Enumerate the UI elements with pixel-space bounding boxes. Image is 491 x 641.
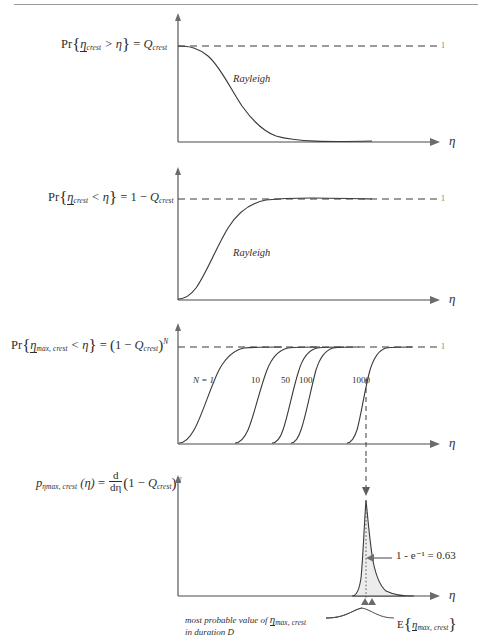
expectation-brace-open: {: [404, 615, 412, 634]
curve-label-n-1: N = 1: [193, 375, 214, 385]
plot-cumulative: [0, 160, 491, 315]
curve-n-50: [272, 347, 344, 443]
panel-max-cumulative: Pr{ηmax, crest < η} = (1 − Qcrest)N N = …: [0, 318, 491, 458]
curve-n-10: [235, 347, 320, 443]
expectation-E: E: [397, 618, 404, 630]
curve-label-n-10: 10: [251, 375, 260, 385]
mode-arrow-marker: [362, 487, 370, 496]
x-axis-arrowhead: [430, 440, 440, 448]
brace-right-connector: [362, 608, 394, 618]
most-probable-line-1: most probable value of: [185, 615, 267, 625]
curve-label-rayleigh: Rayleigh: [233, 247, 270, 258]
mean-axis-marker: [368, 598, 376, 605]
expectation-label: E{ηmax, crest}: [397, 615, 457, 635]
most-probable-value-label: most probable value of ηmax, crest in du…: [185, 613, 306, 638]
unity-tick-label: 1: [441, 194, 445, 203]
unity-tick-label: 1: [441, 41, 445, 50]
curve-n-1000: [347, 347, 412, 443]
x-axis-arrowhead: [430, 592, 440, 600]
panel-density: pηmax, crest (η) = ddη(1 − Qcrest)N: [0, 458, 491, 641]
x-axis-label-eta: η: [449, 435, 455, 451]
unity-tick-label: 1: [441, 342, 445, 351]
plot-max-cumulative: [0, 318, 491, 458]
most-probable-eta-subscript: max, crest: [275, 618, 306, 627]
density-curve: [352, 500, 414, 596]
panel-exceedance: Pr{ηcrest > η} = Qcrest Rayleigh η 1: [0, 0, 491, 158]
curve-label-rayleigh: Rayleigh: [233, 73, 270, 84]
y-axis-arrowhead: [175, 13, 181, 21]
brace-left-connector: [326, 608, 362, 618]
x-axis-label-eta: η: [449, 587, 455, 603]
expectation-eta-subscript: max, crest: [417, 623, 448, 632]
curve-label-n-50: 50: [281, 375, 290, 385]
y-axis-arrowhead: [175, 167, 181, 175]
expectation-brace-close: }: [448, 615, 456, 634]
mode-axis-marker: [361, 598, 369, 605]
y-axis-arrowhead: [175, 475, 181, 483]
x-axis-arrowhead: [430, 296, 440, 304]
x-axis-label-eta: η: [449, 291, 455, 307]
panel-cumulative: Pr{ηcrest < η} = 1 − Qcrest Rayleigh η 1: [0, 160, 491, 315]
x-axis-arrowhead: [430, 138, 440, 146]
curve-label-n-100: 100: [299, 375, 313, 385]
y-axis-arrowhead: [175, 323, 181, 331]
x-axis-label-eta: η: [449, 133, 455, 149]
figure-root: Pr{ηcrest > η} = Qcrest Rayleigh η 1 Pr{…: [0, 0, 491, 641]
rayleigh-exceedance-curve: [178, 46, 372, 141]
probability-level-label: 1 - e⁻¹ = 0.63: [396, 549, 456, 562]
curve-n-1: [179, 347, 282, 443]
rayleigh-cdf-curve: [178, 198, 372, 299]
curve-label-n-1000: 1000: [352, 375, 370, 385]
curve-n-100: [291, 347, 359, 443]
most-probable-line-2: in duration D: [185, 627, 234, 637]
